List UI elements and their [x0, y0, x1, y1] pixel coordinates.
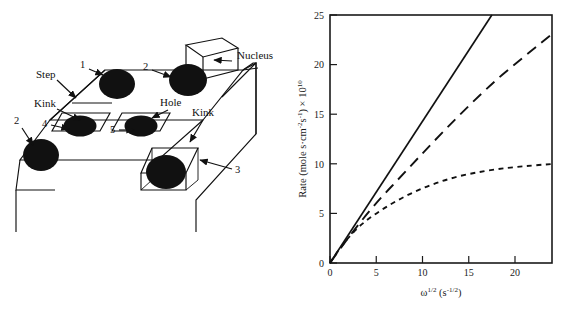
y-tick-labels: 0 5 10 15 20 25 [314, 10, 324, 269]
ylabel-5: 5 [319, 208, 324, 219]
label-nucleus: Nucleus [237, 49, 273, 61]
arrow-site-2b [22, 128, 33, 145]
xaxis-unit-close: ) [458, 287, 462, 299]
xaxis-unit-open: (s [436, 287, 446, 299]
y-axis-title: Rate (mole s·cm-2s-1) × 1010 [296, 80, 309, 198]
atom-kink-4 [64, 116, 97, 137]
label-site-2a: 2 [143, 61, 148, 72]
label-hole: Hole [160, 96, 182, 108]
atom-pit-3 [146, 155, 186, 189]
right-big-face [196, 63, 256, 232]
right-slope-edge [222, 63, 256, 97]
crystal-surface-panel: Step Kink Hole Kink Nucleus 1 2 2 3 4 5 [0, 0, 292, 309]
label-site-1: 1 [80, 59, 85, 70]
arrow-nucleus [214, 60, 232, 61]
xlabel-15: 15 [464, 267, 474, 278]
nucleus-top-face [186, 38, 238, 57]
figure-root: Step Kink Hole Kink Nucleus 1 2 2 3 4 5 [0, 0, 583, 309]
label-site-4: 4 [42, 118, 48, 129]
arrow-site-3 [200, 160, 232, 169]
arrow-site-1 [89, 69, 103, 75]
arrow-site-2a [152, 70, 171, 77]
data-series [330, 15, 552, 263]
xlabel-20: 20 [510, 267, 520, 278]
label-kink-right: Kink [192, 106, 215, 118]
series-short-dashed-helper [330, 158, 552, 263]
arrow-kink-right [190, 120, 203, 142]
label-step: Step [36, 68, 56, 80]
x-tick-labels: 0 5 10 15 20 [328, 267, 521, 278]
atom-terrace-1 [99, 69, 135, 99]
ylabel-20: 20 [314, 59, 324, 70]
atom-nucleus-2 [169, 64, 207, 96]
ylabel-15: 15 [314, 109, 324, 120]
arrow-hole [152, 110, 168, 118]
series-long-dashed-curve [330, 34, 552, 263]
label-site-3: 3 [235, 164, 240, 175]
xlabel-5: 5 [374, 267, 379, 278]
arrow-kink-left [57, 109, 80, 120]
label-site-2b: 2 [14, 115, 19, 126]
rate-chart-svg: 0 5 10 15 20 25 0 5 10 15 20 ω1/2 (s-1/2… [292, 0, 583, 309]
xaxis-unit-sup: -1/2 [447, 286, 459, 294]
svg-text:ω1/2 (s-1/2): ω1/2 (s-1/2) [421, 286, 462, 299]
yaxis-sup3: 10 [296, 80, 304, 88]
atom-step-2 [23, 139, 59, 171]
series-solid-line [330, 15, 492, 263]
ylabel-25: 25 [314, 10, 324, 21]
atom-hole-5 [125, 116, 158, 137]
plot-border [330, 15, 552, 263]
x-axis-title: ω1/2 (s-1/2) [421, 286, 462, 299]
yaxis-tail: ) × 10 [297, 87, 309, 112]
label-site-5: 5 [110, 124, 115, 135]
arrow-step [57, 80, 76, 98]
xlabel-0: 0 [328, 267, 333, 278]
yaxis-lead: Rate (mole s·cm [297, 128, 309, 197]
xlabel-10: 10 [418, 267, 428, 278]
plot-frame [330, 15, 552, 263]
crystal-surface-svg: Step Kink Hole Kink Nucleus 1 2 2 3 4 5 [0, 0, 292, 309]
ylabel-10: 10 [314, 159, 324, 170]
terrace-right-edge [203, 120, 256, 134]
ylabel-0: 0 [319, 258, 324, 269]
rate-chart-panel: 0 5 10 15 20 25 0 5 10 15 20 ω1/2 (s-1/2… [292, 0, 583, 309]
label-kink-left: Kink [34, 97, 57, 109]
svg-text:Rate (mole s·cm-2s-1) × 1010: Rate (mole s·cm-2s-1) × 1010 [296, 80, 309, 198]
